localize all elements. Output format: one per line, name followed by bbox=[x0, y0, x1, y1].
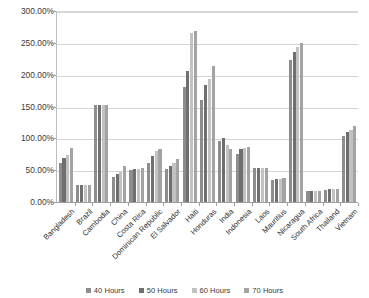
bar bbox=[332, 189, 335, 202]
legend-item[interactable]: 70 Hours bbox=[244, 286, 283, 295]
y-axis-tick-mark bbox=[52, 11, 56, 12]
bar bbox=[236, 154, 239, 202]
bar bbox=[194, 31, 197, 202]
x-axis-tick-mark bbox=[269, 203, 270, 206]
bar bbox=[169, 166, 172, 202]
x-axis-tick-mark bbox=[128, 203, 129, 206]
bar bbox=[208, 79, 211, 203]
bar bbox=[98, 105, 101, 202]
bar-group bbox=[216, 11, 234, 202]
x-axis-tick-mark bbox=[252, 203, 253, 206]
bar bbox=[222, 138, 225, 202]
bar bbox=[257, 168, 260, 202]
y-axis-tick-label: 300.00% bbox=[0, 6, 54, 16]
x-axis-tick-mark bbox=[287, 203, 288, 206]
bar bbox=[186, 71, 189, 202]
bar-group bbox=[234, 11, 252, 202]
x-axis-tick-mark bbox=[75, 203, 76, 206]
legend-item[interactable]: 40 Hours bbox=[86, 286, 125, 295]
y-axis-tick-label: 100.00% bbox=[0, 133, 54, 143]
bar bbox=[176, 159, 179, 202]
y-axis-tick-mark bbox=[52, 43, 56, 44]
bar bbox=[116, 174, 119, 202]
bar bbox=[324, 190, 327, 202]
bar bbox=[183, 87, 186, 202]
bar-group bbox=[340, 11, 358, 202]
bar bbox=[123, 166, 126, 202]
bar bbox=[253, 168, 256, 202]
bar bbox=[190, 33, 193, 202]
bar bbox=[133, 169, 136, 202]
y-axis-tick-mark bbox=[52, 75, 56, 76]
bar bbox=[229, 149, 232, 202]
chart-legend: 40 Hours50 Hours60 Hours70 Hours bbox=[0, 286, 369, 295]
x-axis-tick-mark bbox=[146, 203, 147, 206]
bar bbox=[94, 105, 97, 202]
bar bbox=[353, 126, 356, 202]
bar bbox=[141, 168, 144, 202]
bar-chart: 0.00%50.00%100.00%150.00%200.00%250.00%3… bbox=[0, 0, 369, 298]
x-axis-tick-mark bbox=[110, 203, 111, 206]
bar bbox=[112, 177, 115, 202]
bar bbox=[70, 148, 73, 202]
bar-group bbox=[163, 11, 181, 202]
y-axis-tick-mark bbox=[52, 138, 56, 139]
legend-item[interactable]: 60 Hours bbox=[192, 286, 231, 295]
bar bbox=[212, 66, 215, 202]
y-axis-tick-label: 50.00% bbox=[0, 165, 54, 175]
legend-label: 50 Hours bbox=[147, 286, 178, 295]
x-axis-tick-mark bbox=[163, 203, 164, 206]
legend-item[interactable]: 50 Hours bbox=[139, 286, 178, 295]
bar-group bbox=[323, 11, 341, 202]
bar bbox=[76, 185, 79, 202]
bar bbox=[151, 156, 154, 202]
bar-group bbox=[199, 11, 217, 202]
bar-group bbox=[128, 11, 146, 202]
bar-group bbox=[269, 11, 287, 202]
y-axis-tick-mark bbox=[52, 202, 56, 203]
y-axis-tick-label: 0.00% bbox=[0, 197, 54, 207]
bar bbox=[155, 151, 158, 202]
bar bbox=[226, 145, 229, 202]
bar-group bbox=[305, 11, 323, 202]
bar bbox=[59, 163, 62, 202]
bar bbox=[279, 179, 282, 202]
bar bbox=[119, 172, 122, 202]
bar bbox=[172, 163, 175, 202]
bar-group bbox=[57, 11, 75, 202]
bar bbox=[137, 169, 140, 202]
legend-label: 70 Hours bbox=[252, 286, 283, 295]
bar bbox=[204, 85, 207, 202]
y-axis-tick-label: 250.00% bbox=[0, 38, 54, 48]
x-axis-tick-mark bbox=[323, 203, 324, 206]
bar bbox=[306, 191, 309, 202]
bar bbox=[275, 179, 278, 202]
y-axis-tick-label: 200.00% bbox=[0, 70, 54, 80]
x-axis-tick-mark bbox=[340, 203, 341, 206]
x-axis-tick-mark bbox=[358, 203, 359, 206]
x-axis-tick-mark bbox=[92, 203, 93, 206]
bar bbox=[300, 43, 303, 202]
x-axis-tick-mark bbox=[199, 203, 200, 206]
bar bbox=[289, 60, 292, 202]
bar-group bbox=[92, 11, 110, 202]
bar bbox=[102, 105, 105, 202]
bar-group bbox=[110, 11, 128, 202]
legend-label: 60 Hours bbox=[200, 286, 231, 295]
bar bbox=[328, 189, 331, 202]
x-axis-tick-mark bbox=[305, 203, 306, 206]
bar bbox=[296, 47, 299, 202]
bar bbox=[314, 191, 317, 202]
bar bbox=[80, 185, 83, 202]
bar bbox=[310, 191, 313, 202]
bar bbox=[84, 185, 87, 202]
bar bbox=[62, 158, 65, 202]
bar bbox=[200, 100, 203, 203]
y-axis-tick-mark bbox=[52, 170, 56, 171]
legend-swatch bbox=[192, 288, 197, 293]
y-axis-tick-mark bbox=[52, 107, 56, 108]
bar bbox=[342, 136, 345, 202]
legend-label: 40 Hours bbox=[94, 286, 125, 295]
bar-group bbox=[75, 11, 93, 202]
bar bbox=[293, 52, 296, 202]
